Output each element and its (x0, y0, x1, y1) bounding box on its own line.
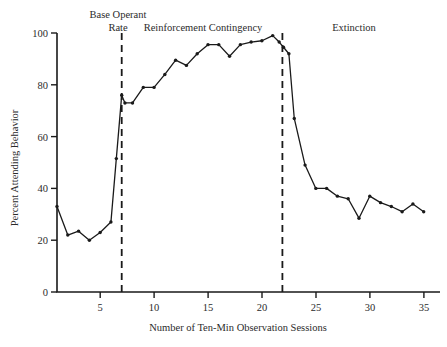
data-point (123, 101, 126, 104)
phase-label-extinction: Extinction (332, 22, 376, 33)
data-point (228, 55, 231, 58)
y-tick-label-0: 0 (43, 287, 48, 298)
data-point (77, 229, 80, 232)
y-tick-label-100: 100 (32, 28, 48, 39)
data-point (152, 86, 155, 89)
data-point (336, 194, 339, 197)
data-point (239, 43, 242, 46)
axis-lines (57, 33, 440, 292)
data-point (66, 233, 69, 236)
y-tick-label-40: 40 (38, 183, 49, 194)
data-point (260, 39, 263, 42)
data-point (390, 205, 393, 208)
y-tick-label-80: 80 (38, 80, 49, 91)
data-point (55, 205, 58, 208)
data-point (98, 231, 101, 234)
x-axis-title: Number of Ten-Min Observation Sessions (149, 322, 327, 333)
x-tick-label-20: 20 (257, 302, 268, 313)
chart-page: Base Operant Rate Reinforcement Continge… (0, 0, 447, 347)
data-point (120, 93, 123, 96)
data-point (282, 46, 285, 49)
phase-label-reinforcement: Reinforcement Contingency (144, 22, 263, 33)
data-point (131, 101, 134, 104)
data-point (422, 210, 425, 213)
data-point (174, 58, 177, 61)
x-axis-ticks (100, 292, 424, 298)
phase-divider-lines (122, 33, 283, 292)
data-point (400, 210, 403, 213)
y-axis-title: Percent Attending Behavior (9, 109, 20, 226)
data-point (206, 43, 209, 46)
data-point (109, 220, 112, 223)
y-tick-label-20: 20 (38, 235, 49, 246)
data-point (379, 201, 382, 204)
data-point (411, 202, 414, 205)
data-point (163, 73, 166, 76)
data-series-line (57, 36, 424, 241)
x-tick-label-10: 10 (149, 302, 160, 313)
data-point (185, 64, 188, 67)
data-point (357, 216, 360, 219)
data-point (277, 40, 280, 43)
x-tick-label-5: 5 (98, 302, 103, 313)
x-tick-label-25: 25 (311, 302, 322, 313)
y-axis-ticks (51, 33, 57, 292)
data-point (115, 157, 118, 160)
phase-label-baseline-line2: Rate (108, 22, 128, 33)
data-point (249, 40, 252, 43)
data-point (346, 197, 349, 200)
data-point (314, 187, 317, 190)
data-point (303, 163, 306, 166)
data-point (293, 117, 296, 120)
phase-label-baseline-line1: Base Operant (90, 9, 147, 20)
data-point (287, 52, 290, 55)
y-tick-label-60: 60 (38, 132, 49, 143)
data-series-points (55, 34, 425, 242)
data-point (368, 194, 371, 197)
x-tick-label-15: 15 (203, 302, 214, 313)
data-point (142, 86, 145, 89)
data-point (196, 52, 199, 55)
data-point (217, 43, 220, 46)
x-axis-tick-labels: 5 10 15 20 25 30 35 (98, 302, 430, 313)
x-tick-label-35: 35 (419, 302, 430, 313)
x-tick-label-30: 30 (365, 302, 376, 313)
attending-behavior-line-chart: Base Operant Rate Reinforcement Continge… (0, 0, 447, 347)
data-point (271, 34, 274, 37)
data-point (325, 187, 328, 190)
y-axis-tick-labels: 0 20 40 60 80 100 (32, 28, 48, 298)
data-point (88, 239, 91, 242)
